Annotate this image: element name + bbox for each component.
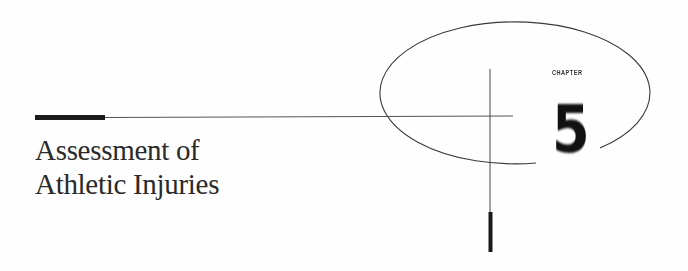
chapter-title-line-1: Assessment of — [35, 133, 219, 167]
chapter-number: 5 — [552, 94, 590, 166]
chapter-title-line-2: Athletic Injuries — [35, 167, 219, 201]
horizontal-thick-bar — [35, 115, 105, 120]
vertical-thick-bar — [489, 212, 493, 252]
horizontal-rule — [104, 116, 513, 118]
ellipse-arc — [380, 22, 650, 164]
chapter-label: CHAPTER — [552, 69, 582, 76]
chapter-title: Assessment of Athletic Injuries — [35, 133, 219, 201]
chapter-opener-page: CHAPTER 5 Assessment of Athletic Injurie… — [0, 0, 688, 271]
